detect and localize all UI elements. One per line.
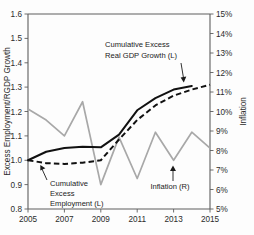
inflation-annotation-arrow [170, 166, 176, 182]
employment-annotation-line3: Employment (L) [50, 199, 104, 208]
left-tick-label: 1.5 [11, 34, 23, 43]
x-tick-label: 2007 [55, 215, 74, 224]
inflation-annotation-line1: Inflation (R) [150, 182, 190, 191]
left-tick-label: 1.3 [11, 83, 23, 92]
right-tick-label: 5% [216, 205, 228, 214]
gdp-annotation: Cumulative Excess Real GDP Growth (L) [105, 40, 186, 83]
right-tick-label: 14% [216, 30, 232, 39]
employment-annotation-arrow [40, 165, 47, 180]
gdp-annotation-line1: Cumulative Excess [105, 40, 170, 49]
employment-annotation: Cumulative Excess Employment (L) [40, 165, 104, 208]
left-tick-label: 1.6 [11, 10, 23, 19]
chart-container: 1.6 1.5 1.4 1.3 1.2 1.1 1.0 0.9 0.8 1 [0, 0, 254, 235]
right-tick-label: 10% [216, 108, 232, 117]
right-axis-tick-labels: 15% 14% 13% 12% 11% 10% 9% 8% 7% 6% 5% [216, 10, 232, 214]
x-tick-label: 2009 [92, 215, 111, 224]
right-axis-title: Inflation [239, 97, 248, 126]
right-tick-label: 8% [216, 147, 228, 156]
right-tick-label: 9% [216, 127, 228, 136]
chart-canvas: 1.6 1.5 1.4 1.3 1.2 1.1 1.0 0.9 0.8 1 [0, 0, 254, 235]
employment-annotation-line2: Excess [50, 189, 75, 198]
left-tick-label: 1.4 [11, 59, 23, 68]
left-tick-label: 0.9 [11, 181, 23, 190]
right-tick-label: 13% [216, 49, 232, 58]
right-tick-label: 11% [216, 88, 232, 97]
left-tick-label: 1.0 [11, 156, 23, 165]
left-axis-tick-labels: 1.6 1.5 1.4 1.3 1.2 1.1 1.0 0.9 0.8 [11, 10, 23, 214]
x-tick-label: 2015 [201, 215, 220, 224]
left-axis-title: Excess Employment/RGDP Growth [3, 47, 12, 176]
left-tick-label: 1.2 [11, 108, 23, 117]
right-tick-label: 6% [216, 186, 228, 195]
series-employment-line [28, 85, 210, 164]
employment-annotation-line1: Cumulative [50, 179, 88, 188]
inflation-annotation: Inflation (R) [150, 166, 190, 192]
left-tick-label: 0.8 [11, 205, 23, 214]
left-tick-label: 1.1 [11, 132, 23, 141]
gdp-annotation-line2: Real GDP Growth (L) [105, 51, 177, 60]
x-tick-label: 2011 [128, 215, 146, 224]
x-tick-label: 2005 [19, 215, 38, 224]
right-tick-label: 12% [216, 69, 232, 78]
series-inflation-line [28, 102, 210, 185]
right-tick-label: 15% [216, 10, 232, 19]
gdp-annotation-arrow [181, 63, 187, 83]
right-tick-label: 7% [216, 166, 228, 175]
x-axis-tick-labels: 2005 2007 2009 2011 2013 2015 [19, 215, 220, 224]
x-tick-label: 2013 [164, 215, 183, 224]
